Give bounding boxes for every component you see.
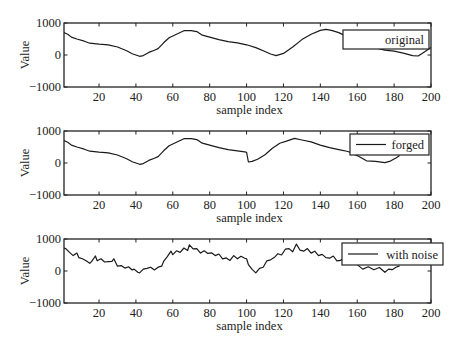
x-tick-label: 80 (203, 306, 216, 320)
x-tick-label: 80 (203, 198, 216, 212)
x-tick-label: 160 (348, 90, 367, 104)
x-tick-label: 120 (274, 306, 293, 320)
y-tick-label: 1000 (36, 124, 61, 138)
subplot-with-noise: 20406080100120140160180200−100001000samp… (18, 232, 443, 333)
x-tick-label: 180 (385, 198, 404, 212)
x-tick-label: 120 (274, 198, 293, 212)
x-tick-label: 60 (167, 306, 180, 320)
x-tick-label: 200 (422, 306, 441, 320)
x-tick-label: 60 (167, 90, 180, 104)
legend-label: forged (392, 138, 425, 152)
x-tick-label: 100 (237, 198, 256, 212)
x-tick-label: 140 (311, 90, 330, 104)
x-tick-label: 200 (422, 198, 441, 212)
y-tick-label: 0 (55, 48, 61, 62)
x-tick-label: 20 (93, 198, 106, 212)
y-axis-label: Value (18, 40, 32, 69)
x-tick-label: 160 (348, 198, 367, 212)
x-tick-label: 160 (348, 306, 367, 320)
y-tick-label: 0 (55, 156, 61, 170)
x-tick-label: 180 (385, 90, 404, 104)
subplot-original: 20406080100120140160180200−100001000samp… (18, 16, 440, 117)
subplot-forged: 20406080100120140160180200−100001000samp… (18, 124, 440, 225)
x-tick-label: 40 (130, 198, 143, 212)
legend-label: with noise (386, 248, 438, 262)
x-tick-label: 20 (93, 306, 106, 320)
figure: 20406080100120140160180200−100001000samp… (0, 0, 459, 349)
x-tick-label: 20 (93, 90, 106, 104)
x-tick-label: 140 (311, 198, 330, 212)
y-axis-label: Value (18, 148, 32, 177)
x-tick-label: 200 (422, 90, 441, 104)
x-axis-label: sample index (216, 319, 283, 333)
x-tick-label: 60 (167, 198, 180, 212)
x-tick-label: 140 (311, 306, 330, 320)
x-tick-label: 40 (130, 90, 143, 104)
x-tick-label: 120 (274, 90, 293, 104)
y-tick-label: 1000 (36, 16, 61, 30)
y-axis-label: Value (18, 256, 32, 285)
series-line-forged (64, 138, 400, 164)
legend: with noise (342, 243, 443, 265)
x-tick-label: 40 (130, 306, 143, 320)
x-tick-label: 180 (385, 306, 404, 320)
legend-label: original (385, 33, 424, 47)
x-tick-label: 80 (203, 90, 216, 104)
x-tick-label: 100 (237, 306, 256, 320)
legend: forged (350, 134, 429, 155)
x-tick-label: 100 (237, 90, 256, 104)
y-tick-label: −1000 (29, 80, 61, 94)
y-tick-label: 1000 (36, 232, 61, 246)
y-tick-label: 0 (55, 264, 61, 278)
legend: original (343, 30, 429, 49)
y-tick-label: −1000 (29, 296, 61, 310)
x-axis-label: sample index (216, 211, 283, 225)
x-axis-label: sample index (216, 103, 283, 117)
y-tick-label: −1000 (29, 188, 61, 202)
